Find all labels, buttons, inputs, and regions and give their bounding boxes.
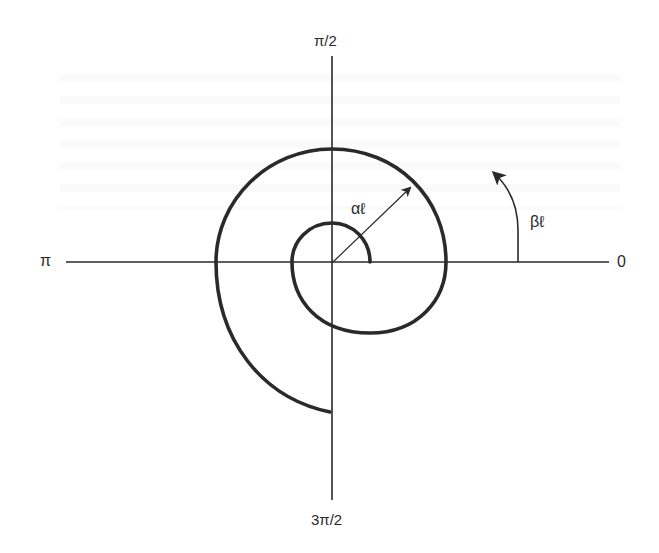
axis-label-pi-over-2: π/2 — [314, 33, 337, 48]
spiral-diagram — [0, 0, 659, 553]
axis-label-pi: π — [40, 253, 51, 269]
angle-arrow-label: βℓ — [530, 214, 544, 230]
angle-arrow — [494, 173, 518, 262]
axis-label-3pi-over-2: 3π/2 — [311, 512, 342, 527]
radius-arrow-label: αℓ — [351, 201, 365, 217]
spiral-curve — [216, 149, 446, 412]
axis-label-zero: 0 — [617, 254, 626, 270]
